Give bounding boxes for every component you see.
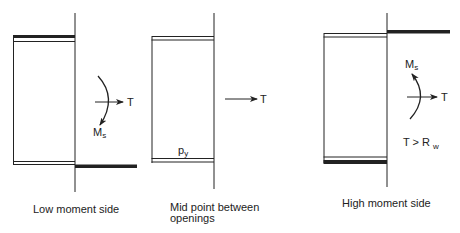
panel3-top-thick-flange [387,30,450,34]
panel2-stress-label: py [178,144,188,158]
panel1-tension-label: T [127,96,134,108]
panel2-tension-label: T [260,93,267,105]
panel1-moment-arc-icon [98,76,109,125]
panel-mid-point: py T Mid point between openings [152,13,268,224]
panel1-moment-label: Ms [93,126,106,140]
panel3-condition-text: T > Rw [403,136,439,151]
panel3-bottom-thick-flange [324,160,388,164]
panel1-caption: Low moment side [33,203,119,215]
web-post-diagram: T Ms Low moment side py T Mid point betw… [0,0,460,233]
panel3-caption: High moment side [342,197,431,209]
panel1-top-thick-flange [13,35,75,38]
panel2-caption-line2: openings [170,212,215,224]
panel3-moment-label: Ms [405,58,418,72]
panel1-bottom-thick-flange [75,165,137,169]
panel3-tension-label: T [441,91,448,103]
panel-low-moment-side: T Ms Low moment side [13,13,137,215]
panel-high-moment-side: T Ms T > Rw High moment side [324,13,451,209]
